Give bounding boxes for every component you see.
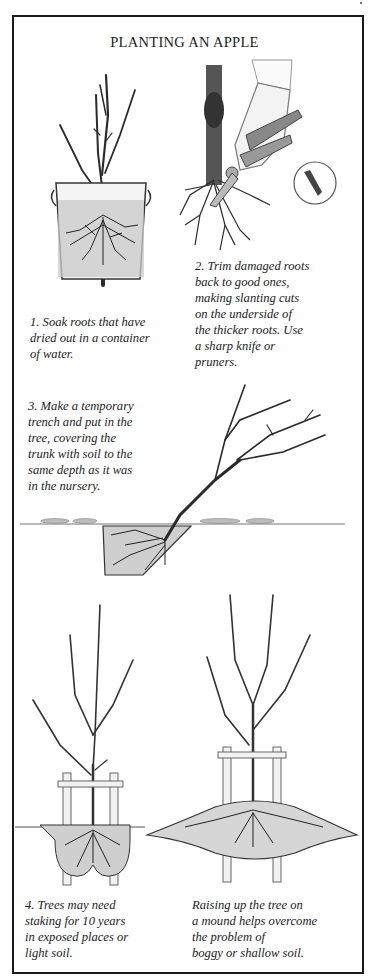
- caption-line: back to good ones,: [195, 274, 309, 290]
- caption-line: the thicker roots. Use: [195, 322, 309, 338]
- magnified-cut-icon: [292, 160, 338, 206]
- step-1-caption: 1. Soak roots that have dried out in a c…: [30, 314, 150, 362]
- staked-tree-icon: [15, 595, 155, 895]
- pruner-hand-icon: [180, 55, 310, 255]
- caption-line: 4. Trees may need: [25, 897, 128, 913]
- step-2-caption: 2. Trim damaged roots back to good ones,…: [195, 258, 309, 370]
- caption-line: trench and put in the: [28, 414, 134, 430]
- page-mark: [360, 2, 362, 4]
- tree-bucket-icon: [40, 55, 160, 285]
- caption-line: light soil.: [25, 945, 128, 961]
- caption-line: on the underside of: [195, 306, 309, 322]
- caption-line: 2. Trim damaged roots: [195, 258, 309, 274]
- caption-line: a mound helps overcome: [192, 913, 317, 929]
- caption-line: making slanting cuts: [195, 290, 309, 306]
- caption-line: in the nursery.: [28, 478, 134, 494]
- caption-line: a sharp knife or: [195, 338, 309, 354]
- page-title: PLANTING AN APPLE: [0, 34, 369, 51]
- caption-line: same depth as it was: [28, 462, 134, 478]
- mound-caption: Raising up the tree on a mound helps ove…: [192, 897, 317, 961]
- caption-line: of water.: [30, 346, 150, 362]
- mound-tree-icon: [145, 595, 365, 885]
- caption-line: dried out in a container: [30, 330, 150, 346]
- caption-line: trunk with soil to the: [28, 446, 134, 462]
- caption-line: in exposed places or: [25, 929, 128, 945]
- caption-line: 1. Soak roots that have: [30, 314, 150, 330]
- caption-line: Raising up the tree on: [192, 897, 317, 913]
- caption-line: tree, covering the: [28, 430, 134, 446]
- caption-line: boggy or shallow soil.: [192, 945, 317, 961]
- caption-line: pruners.: [195, 354, 309, 370]
- step-4-caption: 4. Trees may need staking for 10 years i…: [25, 897, 128, 961]
- caption-line: staking for 10 years: [25, 913, 128, 929]
- caption-line: 3. Make a temporary: [28, 398, 134, 414]
- step-3-caption: 3. Make a temporary trench and put in th…: [28, 398, 134, 494]
- caption-line: the problem of: [192, 929, 317, 945]
